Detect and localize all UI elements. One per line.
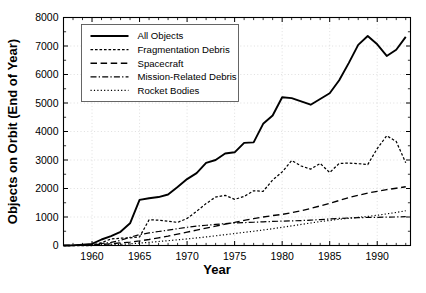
y-tick-label: 1000 — [35, 211, 59, 223]
y-tick-label: 0 — [53, 239, 59, 251]
chart-figure: 010002000300040005000600070008000 196019… — [0, 0, 426, 293]
x-tick-label: 1985 — [318, 250, 342, 262]
x-tick-label: 1990 — [366, 250, 390, 262]
y-tick-label: 7000 — [35, 40, 59, 52]
line-chart: 010002000300040005000600070008000 196019… — [0, 0, 426, 293]
y-tick-label: 5000 — [35, 97, 59, 109]
legend-label-fragmentation-debris: Fragmentation Debris — [138, 44, 230, 55]
y-tick-label: 8000 — [35, 11, 59, 23]
y-tick-label: 3000 — [35, 154, 59, 166]
x-tick-label: 1980 — [270, 250, 294, 262]
legend-label-spacecraft: Spacecraft — [138, 58, 184, 69]
x-tick-label: 1960 — [80, 250, 104, 262]
y-tick-label: 2000 — [35, 182, 59, 194]
y-tick-label: 4000 — [35, 125, 59, 137]
x-tick-label: 1975 — [223, 250, 247, 262]
x-tick-label: 1965 — [128, 250, 152, 262]
y-axis-title: Objects on Orbit (End of Year) — [5, 39, 20, 224]
x-axis-title: Year — [203, 262, 230, 277]
y-tick-label: 6000 — [35, 68, 59, 80]
y-axis-tick-labels: 010002000300040005000600070008000 — [35, 11, 59, 251]
legend-label-mission-related-debris: Mission-Related Debris — [138, 71, 237, 82]
legend-label-all-objects: All Objects — [138, 30, 184, 41]
x-tick-label: 1970 — [175, 250, 199, 262]
chart-legend: All ObjectsFragmentation DebrisSpacecraf… — [82, 25, 239, 102]
legend-label-rocket-bodies: Rocket Bodies — [138, 85, 200, 96]
